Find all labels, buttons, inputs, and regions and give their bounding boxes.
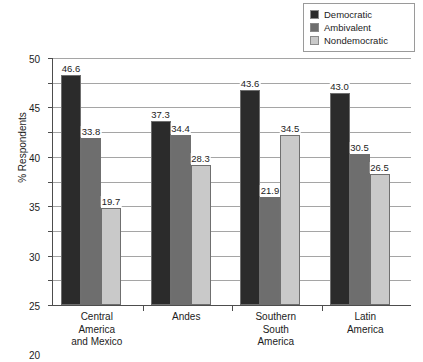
bar[interactable] [260,197,280,305]
bar-slot: 19.7 [101,58,121,305]
bar[interactable] [171,135,191,305]
bar-slot: 21.9 [260,58,280,305]
category-label-line: Latin [321,311,411,324]
y-axis-tick: 10 [48,256,53,257]
category-label-line: and Mexico [52,336,142,349]
y-axis-tick: 25 [48,182,53,183]
legend-swatch-democratic [310,10,319,19]
bar-slot: 28.3 [191,58,211,305]
bar-slot: 30.5 [350,58,370,305]
legend-label-ambivalent: Ambivalent [324,21,371,34]
y-axis-tick-label: 40 [29,152,40,163]
bar[interactable] [61,75,81,305]
bar[interactable] [151,121,171,305]
category-label-line: America [52,324,142,337]
chart-figure: Democratic Ambivalent Nondemocratic % Re… [0,0,423,362]
y-axis-tick: 50 [48,58,53,59]
bar-group: 37.334.428.3 [151,58,211,305]
legend-item-democratic: Democratic [310,8,409,21]
y-axis-title: % Respondents [17,88,28,208]
category-label-line: South [231,324,321,337]
legend-item-ambivalent: Ambivalent [310,21,409,34]
x-axis-category-label: LatinAmerica [321,311,411,336]
bar-value-label: 37.3 [150,109,171,120]
bar[interactable] [350,154,370,305]
bar-value-label: 43.6 [240,78,261,89]
x-axis-category-label: SouthernSouthAmerica [231,311,321,349]
y-axis-tick-label: 20 [29,350,40,361]
y-axis-tick: 35 [48,132,53,133]
category-label-line: Southern [231,311,321,324]
legend-label-democratic: Democratic [324,8,372,21]
bar-value-label: 34.5 [280,123,301,134]
bar-slot: 46.6 [61,58,81,305]
legend-item-nondemocratic: Nondemocratic [310,34,409,47]
bar[interactable] [370,174,390,305]
legend-swatch-nondemocratic [310,36,319,45]
bar[interactable] [101,208,121,305]
y-axis-tick: 0 [48,305,53,306]
bar-slot: 43.0 [330,58,350,305]
x-axis-category-label: CentralAmericaand Mexico [52,311,142,349]
category-label-line: America [321,324,411,337]
bar-group: 43.621.934.5 [240,58,300,305]
legend-label-nondemocratic: Nondemocratic [324,34,388,47]
y-axis-tick: 15 [48,231,53,232]
category-label-line: America [231,336,321,349]
bar-slot: 34.4 [171,58,191,305]
y-axis-tick: 45 [48,83,53,84]
bar-slot: 34.5 [280,58,300,305]
x-axis-category-label: Andes [142,311,232,324]
bar[interactable] [191,165,211,305]
bar-value-label: 26.5 [369,162,390,173]
bar-value-label: 34.4 [170,123,191,134]
bar[interactable] [240,90,260,305]
chart-legend: Democratic Ambivalent Nondemocratic [303,3,415,52]
bar-value-label: 21.9 [260,185,281,196]
bar-value-label: 46.6 [61,63,82,74]
bar-value-label: 28.3 [190,153,211,164]
y-axis-tick: 20 [48,206,53,207]
y-axis-tick-label: 50 [29,54,40,65]
bar-slot: 33.8 [81,58,101,305]
y-axis-tick: 40 [48,107,53,108]
bar-value-label: 30.5 [349,142,370,153]
bar-slot: 43.6 [240,58,260,305]
y-axis-tick: 5 [48,280,53,281]
category-label-line: Andes [142,311,232,324]
bar-slot: 37.3 [151,58,171,305]
legend-swatch-ambivalent [310,23,319,32]
y-axis-tick-label: 30 [29,251,40,262]
y-axis-tick-label: 35 [29,202,40,213]
y-axis-tick: 30 [48,157,53,158]
bar-value-label: 33.8 [81,126,102,137]
bar-group: 43.030.526.5 [330,58,390,305]
bar-value-label: 19.7 [101,196,122,207]
bar[interactable] [280,135,300,305]
bar[interactable] [330,93,350,305]
plot-area: 0510152025303540455046.633.819.737.334.4… [52,58,411,306]
bar[interactable] [81,138,101,305]
category-label-line: Central [52,311,142,324]
bar-value-label: 43.0 [329,81,350,92]
y-axis-tick-label: 45 [29,103,40,114]
y-axis-tick-label: 25 [29,301,40,312]
bar-group: 46.633.819.7 [61,58,121,305]
bar-slot: 26.5 [370,58,390,305]
